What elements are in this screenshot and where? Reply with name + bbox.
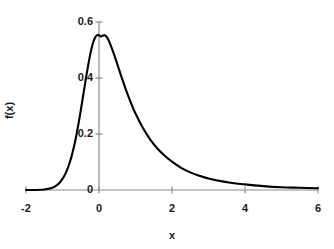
y-axis-tick-label: 0.2	[78, 128, 93, 139]
density-curve-line	[26, 35, 318, 190]
y-axis-tick-label: 0.6	[78, 16, 93, 27]
x-axis-tick-label: -2	[6, 203, 46, 214]
x-axis-tick-label: 4	[225, 203, 265, 214]
x-axis-tick-label: 6	[298, 203, 334, 214]
axis-group	[26, 22, 318, 194]
x-axis-title: x	[142, 230, 202, 241]
y-axis-tick-label: 0.4	[78, 72, 93, 83]
x-axis-tick-label: 2	[152, 203, 192, 214]
y-axis-title: f(x)	[4, 86, 15, 136]
y-axis-tick-label: 0	[87, 184, 93, 195]
x-axis-tick-label: 0	[79, 203, 119, 214]
chart-container: 00.20.40.6 -20246 f(x) x	[0, 0, 334, 249]
